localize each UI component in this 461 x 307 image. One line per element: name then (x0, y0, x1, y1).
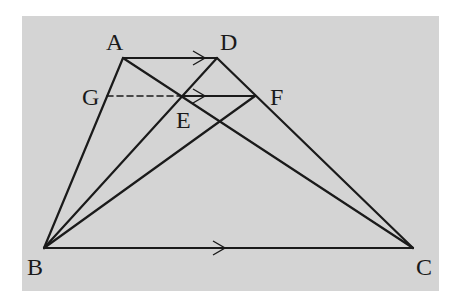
label-E: E (176, 107, 191, 133)
label-B: B (27, 254, 43, 280)
geometry-diagram: A D G E F B C (0, 0, 461, 307)
label-C: C (416, 254, 432, 280)
label-A: A (106, 29, 124, 55)
diagram-background (22, 16, 439, 291)
label-D: D (220, 29, 237, 55)
label-F: F (270, 84, 283, 110)
label-G: G (82, 84, 99, 110)
